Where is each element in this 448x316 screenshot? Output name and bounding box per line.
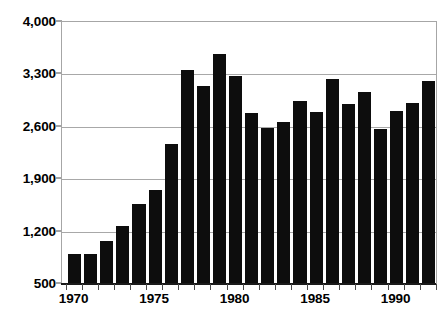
bar-chart-figure: 5001,2001,9002,6003,3004,000 19701975198… [0, 0, 448, 316]
x-tick-mark-13 [275, 284, 276, 290]
x-tick-label-1985: 1985 [300, 291, 330, 306]
bar-1989 [374, 129, 387, 284]
bar-1975 [149, 190, 162, 284]
x-tick-label-1980: 1980 [220, 291, 250, 306]
bar-1990 [390, 111, 403, 284]
x-tick-mark-10 [227, 284, 228, 290]
x-tick-label-1990: 1990 [381, 291, 411, 306]
bar-1981 [245, 113, 258, 284]
bar-1985 [310, 112, 323, 284]
bar-1987 [342, 104, 355, 284]
y-axis: 5001,2001,9002,6003,3004,000 [0, 0, 56, 316]
x-tick-mark-11 [243, 284, 244, 290]
y-tick-label-1200: 1,200 [0, 223, 56, 238]
x-tick-mark-7 [178, 284, 179, 290]
x-axis-labels: 19701975198019851990 [0, 291, 448, 313]
x-tick-mark-18 [355, 284, 356, 290]
bar-1971 [84, 254, 97, 284]
bar-1983 [277, 122, 290, 284]
x-tick-mark-21 [404, 284, 405, 290]
x-tick-mark-22 [420, 284, 421, 290]
y-tick-label-2600: 2,600 [0, 118, 56, 133]
bar-1982 [261, 128, 274, 284]
plot-area [61, 21, 437, 284]
bar-1992 [422, 81, 435, 284]
x-tick-mark-12 [259, 284, 260, 290]
x-tick-mark-2 [98, 284, 99, 290]
x-tick-mark-3 [114, 284, 115, 290]
bar-1978 [197, 86, 210, 284]
y-tick-label-1900: 1,900 [0, 171, 56, 186]
x-tick-mark-14 [291, 284, 292, 290]
x-tick-mark-0 [66, 284, 67, 290]
x-tick-label-1970: 1970 [59, 291, 89, 306]
bar-1972 [100, 241, 113, 284]
bar-1973 [116, 226, 129, 284]
bar-1980 [229, 76, 242, 284]
bar-1979 [213, 54, 226, 284]
y-tick-label-4000: 4,000 [0, 14, 56, 29]
x-tick-mark-9 [210, 284, 211, 290]
y-tick-label-3300: 3,300 [0, 66, 56, 81]
x-tick-mark-23 [436, 284, 437, 290]
bar-1977 [181, 70, 194, 284]
x-tick-mark-4 [130, 284, 131, 290]
bar-1976 [165, 144, 178, 284]
x-tick-mark-19 [371, 284, 372, 290]
x-tick-mark-8 [194, 284, 195, 290]
bars-layer [62, 22, 436, 284]
x-tick-mark-1 [82, 284, 83, 290]
chart-title-cropped [104, 0, 334, 3]
x-tick-mark-16 [323, 284, 324, 290]
bar-1986 [326, 79, 339, 284]
x-tick-mark-15 [307, 284, 308, 290]
x-tick-mark-17 [339, 284, 340, 290]
bar-1988 [358, 92, 371, 284]
x-tick-mark-6 [162, 284, 163, 290]
bar-1984 [293, 101, 306, 284]
x-axis-tick-marks [0, 284, 448, 291]
x-tick-label-1975: 1975 [139, 291, 169, 306]
bar-1970 [68, 254, 81, 284]
bar-1991 [406, 103, 419, 284]
x-tick-mark-20 [388, 284, 389, 290]
x-tick-mark-5 [146, 284, 147, 290]
bar-1974 [132, 204, 145, 284]
